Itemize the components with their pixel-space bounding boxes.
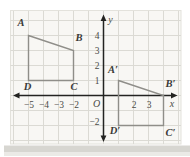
vertex-label-C: C	[70, 81, 78, 92]
vertex-label-D-prime: D′	[109, 125, 121, 136]
y-tick-label: 1	[95, 76, 100, 86]
vertex-label-B: B	[74, 32, 82, 43]
y-tick-label: 3	[95, 46, 100, 56]
x-tick-label: −4	[39, 100, 49, 110]
vertex-label-C-prime: C′	[166, 127, 176, 138]
origin-label: O	[93, 98, 100, 109]
x-axis-label: x	[169, 98, 175, 109]
bottom-band	[4, 146, 190, 153]
x-tick-label: −3	[54, 100, 64, 110]
vertex-label-A-prime: A′	[107, 64, 118, 75]
bottom-band-light	[4, 153, 190, 157]
y-tick-label: 2	[95, 61, 100, 71]
x-tick-label: 3	[147, 100, 152, 110]
y-tick-label: 4	[95, 31, 100, 41]
x-tick-label: 2	[132, 100, 137, 110]
y-tick-label: −2	[89, 117, 99, 127]
figure-canvas: −5−4−3−2234321−2OxyABCDA′B′C′D′	[0, 0, 190, 156]
coordinate-plane-svg: −5−4−3−2234321−2OxyABCDA′B′C′D′	[0, 0, 190, 156]
vertex-label-B-prime: B′	[165, 78, 176, 89]
vertex-label-D: D	[23, 81, 32, 92]
x-tick-label: −2	[69, 100, 79, 110]
y-axis-label: y	[107, 14, 113, 25]
vertex-label-A: A	[16, 17, 24, 28]
x-tick-label: −5	[24, 100, 34, 110]
